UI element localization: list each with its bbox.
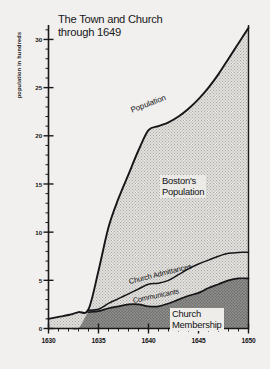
- y-tick-label: 5: [26, 277, 42, 284]
- x-tick-label: 1650: [234, 337, 264, 344]
- y-tick-label: 30: [26, 36, 42, 43]
- y-tick-label: 10: [26, 229, 42, 236]
- x-tick-label: 1640: [134, 337, 164, 344]
- annotation-church-membership: Church Membership: [170, 308, 224, 331]
- x-tick-label: 1635: [84, 337, 114, 344]
- x-tick-label: 1645: [184, 337, 214, 344]
- annotation-boston-population: Boston's Population: [160, 175, 206, 198]
- y-tick-label: 20: [26, 132, 42, 139]
- chart-figure: population in hundreds 051015202530 1630…: [0, 0, 270, 369]
- y-tick-label: 25: [26, 84, 42, 91]
- y-tick-label: 0: [26, 325, 42, 332]
- y-tick-label: 15: [26, 181, 42, 188]
- y-axis-label: population in hundreds: [16, 10, 22, 120]
- x-tick-label: 1630: [34, 337, 64, 344]
- chart-title: The Town and Church through 1649: [58, 13, 163, 40]
